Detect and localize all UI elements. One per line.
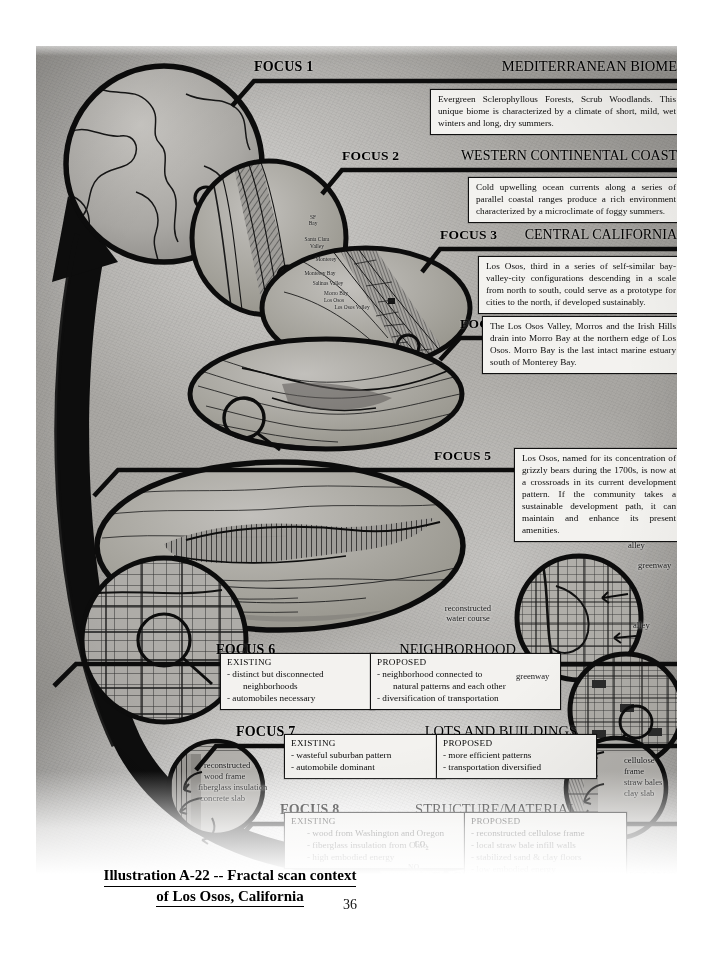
- map-label: Santa Clara: [287, 236, 347, 242]
- caption-line-2: of Los Osos, California: [156, 887, 304, 908]
- map-label: Los Osos Valley: [322, 304, 382, 310]
- map-label: Monterey: [296, 256, 356, 262]
- map-label: Salinas Valley: [298, 280, 358, 286]
- caption-line-1: Illustration A-22 -- Fractal scan contex…: [104, 866, 357, 887]
- map-label: Morro Bay: [306, 290, 366, 296]
- map-label: Monterey Bay: [290, 270, 350, 276]
- scanned-illustration-plate: FOCUS 1 MEDITERRANEAN BIOME FOCUS 2 WEST…: [36, 46, 677, 891]
- map-label: Los Osos: [304, 297, 364, 303]
- map-label: Valley: [287, 243, 347, 249]
- scan-vignette-overlay: [36, 46, 677, 891]
- page-number: 36: [330, 897, 370, 913]
- scan-top-fade: [36, 46, 677, 56]
- map-label: Bay: [283, 220, 343, 226]
